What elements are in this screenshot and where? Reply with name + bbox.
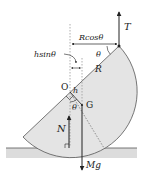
theta-arc-top [107, 46, 110, 54]
centroid-label: G [86, 100, 93, 110]
h-label: h [73, 86, 78, 95]
hsin-pointer [64, 54, 76, 63]
weight-label: Mg [85, 160, 101, 170]
semicircle-equilibrium-diagram: T Rcosθ hsinθ θ R O h θ G N Mg [0, 0, 143, 178]
tension-label: T [124, 21, 132, 32]
rcos-label: Rcosθ [78, 33, 103, 42]
theta-mid-label: θ [72, 103, 77, 112]
radius-label: R [94, 64, 102, 74]
hsin-label: hsinθ [34, 50, 56, 59]
origin-label: O [61, 82, 68, 92]
theta-top-label: θ [96, 50, 101, 59]
semicircle-body [23, 46, 137, 158]
normal-label: N [56, 123, 67, 134]
pivot-point [118, 45, 121, 48]
centroid-point [81, 104, 83, 106]
